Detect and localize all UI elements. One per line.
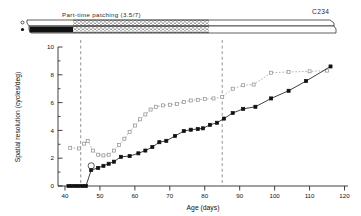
filled-square-marker	[287, 89, 290, 92]
open-circle-marker	[21, 21, 24, 24]
filled-square-marker	[144, 149, 147, 152]
x-tick-label: 90	[236, 192, 243, 199]
filled-square-marker	[81, 184, 84, 187]
open-square-marker	[154, 105, 157, 108]
open-square-marker	[77, 147, 80, 150]
patching-segment-open	[73, 20, 209, 25]
filled-square-marker	[137, 152, 140, 155]
plot-area: 0246810 405060708090100110120 Age (days)…	[14, 40, 350, 212]
timeline-bar-open	[27, 20, 334, 26]
open-square-marker	[69, 146, 72, 149]
figure-root: Part-time patching (3.5/7) C234 0246810 …	[0, 0, 361, 216]
filled-square-marker	[107, 162, 110, 165]
filled-square-marker	[215, 121, 218, 124]
open-square-marker	[287, 71, 290, 74]
filled-square-marker	[112, 160, 115, 163]
open-square-marker	[270, 71, 273, 74]
filled-square-marker	[329, 65, 332, 68]
open-square-marker	[161, 104, 164, 107]
subject-code-label: C234	[312, 8, 329, 15]
filled-square-marker	[196, 127, 199, 130]
y-tick-group: 0246810	[47, 43, 62, 189]
y-tick-label: 0	[51, 182, 55, 189]
spatial-resolution-figure: Part-time patching (3.5/7) C234 0246810 …	[0, 0, 361, 216]
open-square-marker	[133, 124, 136, 127]
filled-square-marker	[102, 164, 105, 167]
open-square-marker	[149, 108, 152, 111]
open-square-marker	[182, 100, 185, 103]
x-axis-label: Age (days)	[187, 204, 220, 212]
patching-label: Part-time patching (3.5/7)	[62, 11, 141, 18]
open-square-marker	[128, 130, 131, 133]
open-square-marker	[139, 118, 142, 121]
open-square-marker	[123, 137, 126, 140]
open-square-marker	[203, 98, 206, 101]
open-square-marker	[242, 84, 245, 87]
open-square-marker	[168, 103, 171, 106]
x-tick-label: 70	[166, 192, 173, 199]
open-square-marker	[252, 83, 255, 86]
filled-square-marker	[208, 123, 211, 126]
series-deprived-eye	[67, 65, 332, 188]
filled-square-marker	[74, 184, 77, 187]
treatment-timeline: Part-time patching (3.5/7) C234	[21, 8, 336, 33]
open-square-marker	[212, 97, 215, 100]
patching-segment-filled	[73, 27, 209, 33]
filled-square-marker	[128, 155, 131, 158]
x-tick-label: 100	[269, 192, 280, 199]
open-square-marker	[107, 153, 110, 156]
open-square-marker	[144, 113, 147, 116]
x-tick-label: 120	[339, 192, 350, 199]
open-square-marker	[231, 87, 234, 90]
filled-square-marker	[77, 184, 80, 187]
filled-square-marker	[151, 146, 154, 149]
y-axis-label: Spatial resolution (cycles/deg)	[14, 72, 22, 163]
filled-square-marker	[174, 134, 177, 137]
open-square-marker	[221, 96, 224, 99]
open-square-marker	[308, 70, 311, 73]
filled-square-marker	[70, 184, 73, 187]
open-square-marker	[97, 153, 100, 156]
filled-circle-marker	[21, 28, 24, 31]
x-tick-label: 60	[131, 192, 138, 199]
open-square-marker	[83, 142, 86, 145]
filled-square-marker	[222, 117, 225, 120]
deprivation-segment	[30, 27, 74, 33]
y-tick-label: 2	[51, 154, 55, 161]
open-square-marker	[86, 139, 89, 142]
open-circle-annotation	[88, 163, 94, 169]
filled-square-marker	[97, 166, 100, 169]
filled-square-marker	[254, 105, 257, 108]
open-square-marker	[189, 99, 192, 102]
filled-square-marker	[165, 139, 168, 142]
y-tick-label: 8	[51, 71, 55, 78]
filled-square-marker	[119, 155, 122, 158]
y-tick-label: 4	[51, 127, 55, 134]
x-tick-group: 405060708090100110120	[62, 186, 351, 199]
filled-square-marker	[270, 97, 273, 100]
open-square-marker	[102, 154, 105, 157]
filled-square-marker	[231, 111, 234, 114]
filled-square-marker	[189, 128, 192, 131]
x-tick-label: 110	[305, 192, 315, 199]
y-tick-label: 6	[51, 99, 55, 106]
open-square-marker	[175, 102, 178, 105]
series-line	[70, 71, 327, 156]
filled-square-marker	[84, 184, 87, 187]
filled-square-marker	[67, 184, 70, 187]
x-tick-label: 80	[201, 192, 208, 199]
filled-square-marker	[201, 127, 204, 130]
series-nondeprived-eye	[69, 69, 329, 157]
open-square-marker	[112, 149, 115, 152]
x-tick-label: 50	[96, 192, 103, 199]
timeline-bar-filled	[29, 26, 336, 33]
series-line	[68, 66, 330, 186]
filled-square-marker	[182, 130, 185, 133]
open-square-marker	[91, 149, 94, 152]
filled-square-marker	[158, 141, 161, 144]
filled-square-marker	[305, 80, 308, 83]
x-tick-label: 40	[62, 192, 69, 199]
filled-square-marker	[242, 107, 245, 110]
open-square-marker	[118, 144, 121, 147]
y-tick-label: 10	[47, 43, 54, 50]
